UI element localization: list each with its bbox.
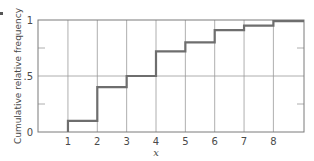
step-chart: 123456780.51xCumulative relative frequen… <box>0 0 314 161</box>
y-tick-label: 1 <box>27 15 33 26</box>
x-tick-label: 7 <box>241 136 247 147</box>
x-tick-label: 4 <box>153 136 159 147</box>
x-axis-label: x <box>153 147 159 158</box>
x-tick-label: 8 <box>270 136 276 147</box>
step-line <box>68 21 304 132</box>
y-tick-label: 0 <box>27 127 33 138</box>
y-tick-label: .5 <box>23 71 33 82</box>
x-tick-label: 1 <box>65 136 71 147</box>
x-tick-label: 6 <box>212 136 218 147</box>
x-tick-label: 3 <box>123 136 129 147</box>
y-axis-label: Cumulative relative frequency <box>13 7 23 144</box>
x-tick-label: 2 <box>94 136 100 147</box>
x-tick-label: 5 <box>182 136 188 147</box>
